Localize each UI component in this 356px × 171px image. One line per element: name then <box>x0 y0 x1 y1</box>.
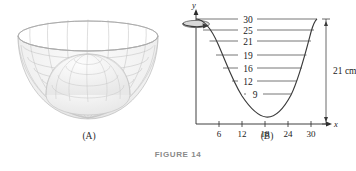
profile-plot-svg: y x 6 12 <box>178 0 356 140</box>
chord-labels: 30 25 21 19 16 12 9 <box>243 15 257 100</box>
figure-number-caption: FIGURE 14 <box>0 150 356 159</box>
dimension-arrow-top <box>324 21 328 26</box>
panel-a-caption: (A) <box>0 131 178 141</box>
figure-14: (A) y x <box>0 0 356 171</box>
bowl-wireframe-svg <box>0 0 178 140</box>
chord-label: 30 <box>243 15 253 25</box>
chord-label: 19 <box>243 51 253 61</box>
chord-label: 21 <box>243 37 253 47</box>
x-axis-label: x <box>333 119 338 129</box>
chord-label: 16 <box>243 64 253 74</box>
dimension-arrow-bottom <box>324 117 328 122</box>
panel-b-caption: (B) <box>178 131 356 141</box>
chord-lines <box>196 19 317 94</box>
chord-label: 12 <box>243 77 253 87</box>
chord-label: 25 <box>243 26 253 36</box>
chord-label: 9 <box>253 90 258 100</box>
y-axis-label: y <box>191 0 196 10</box>
dimension-label: 21 cm <box>333 66 356 76</box>
panel-b-profile-plot: y x 6 12 <box>178 0 356 171</box>
dimension-line-21cm <box>322 19 330 124</box>
x-axis <box>196 122 332 127</box>
panel-a-bowl-illustration: (A) <box>0 0 178 171</box>
